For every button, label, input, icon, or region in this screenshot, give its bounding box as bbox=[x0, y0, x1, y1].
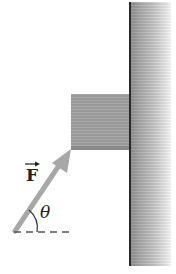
angle-arc bbox=[29, 210, 37, 232]
force-geometry bbox=[0, 0, 176, 274]
angle-label: θ bbox=[40, 203, 50, 221]
physics-diagram: F θ bbox=[0, 0, 176, 274]
force-label: F bbox=[24, 167, 40, 184]
